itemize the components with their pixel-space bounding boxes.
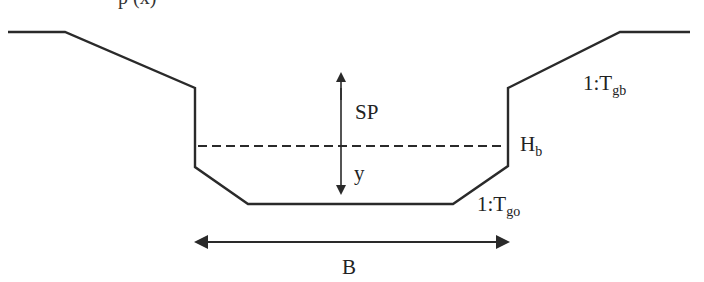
label-b: B [342, 257, 356, 278]
label-tgb: 1:Tgb [583, 73, 626, 98]
diagram-drawing [0, 0, 704, 282]
label-tgo: 1:Tgo [477, 194, 520, 219]
label-sp: SP [355, 102, 378, 123]
channel-profile-line [8, 32, 690, 204]
label-hb: Hb [520, 134, 542, 159]
label-y: y [354, 163, 365, 184]
channel-cross-section-diagram: p (x) SP y Hb 1:Tgb 1:Tgo B [0, 0, 704, 282]
